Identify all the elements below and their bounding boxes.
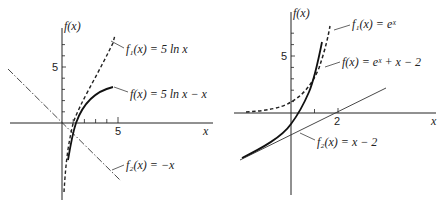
left-y-axis-label: f(x) xyxy=(64,19,81,33)
right-panel: 2 5 f(x) x f₁(x) = eˣ f(x) = eˣ + x − 2 … xyxy=(234,6,437,195)
right-x-ticks xyxy=(315,108,339,113)
right-leader-f xyxy=(325,62,340,67)
left-x-axis-label: x xyxy=(202,124,209,138)
left-y-ticks xyxy=(62,45,66,112)
left-label-f2: f₂(x) = −x xyxy=(126,158,175,172)
right-leader-f2 xyxy=(300,133,315,140)
right-y-axis-label: f(x) xyxy=(293,6,310,20)
right-leader-f1 xyxy=(334,25,350,30)
left-label-f1: f₁(x) = 5 ln x xyxy=(126,42,188,56)
left-x-ticks xyxy=(73,117,118,123)
right-label-f2: f₂(x) = x − 2 xyxy=(317,135,377,149)
right-y-tick-label: 5 xyxy=(281,50,287,62)
left-curve-f2 xyxy=(8,69,121,181)
right-curve-f2 xyxy=(240,88,386,160)
right-x-axis-label: x xyxy=(430,114,437,128)
right-curve-f1 xyxy=(246,26,330,112)
right-label-f1: f₁(x) = eˣ xyxy=(352,17,396,31)
left-x-tick-label: 5 xyxy=(115,125,121,137)
right-y-ticks xyxy=(291,33,295,101)
right-label-f: f(x) = eˣ + x − 2 xyxy=(342,55,421,69)
right-x-tick-label: 2 xyxy=(334,115,340,127)
left-leader-f2 xyxy=(112,165,124,170)
left-panel: 5 5 f(x) x f₁(x) = 5 ln x f(x) = 5 ln x … xyxy=(8,19,213,200)
figure-canvas: 5 5 f(x) x f₁(x) = 5 ln x f(x) = 5 ln x … xyxy=(0,0,444,208)
left-y-tick-label: 5 xyxy=(52,61,58,73)
left-curve-f1-smooth xyxy=(64,35,115,192)
left-label-f: f(x) = 5 ln x − x xyxy=(130,87,208,101)
left-leader-f xyxy=(114,87,128,92)
